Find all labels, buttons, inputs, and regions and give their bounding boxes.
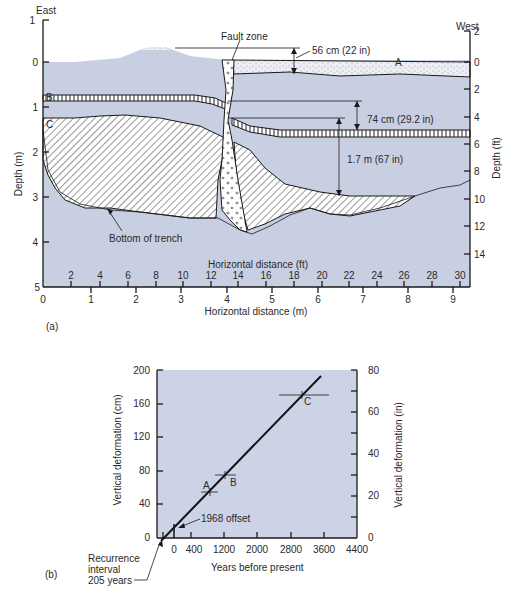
svg-text:160: 160 <box>133 398 150 409</box>
bottom-of-trench-label: Bottom of trench <box>109 233 182 244</box>
svg-text:14: 14 <box>474 249 486 260</box>
point-b-label: B <box>230 477 237 488</box>
svg-text:9: 9 <box>450 294 456 305</box>
deformation-chart: 0 40 80 120 160 200 0 20 40 60 80 <box>45 365 404 586</box>
trench-cross-section: 1 0 1 2 3 4 5 2 0 2 4 6 8 10 12 14 <box>13 5 502 332</box>
east-label: East <box>36 5 56 16</box>
svg-text:400: 400 <box>186 544 203 555</box>
svg-text:12: 12 <box>474 221 486 232</box>
svg-text:40: 40 <box>368 448 380 459</box>
layer-c-east <box>43 115 225 218</box>
figure: 1 0 1 2 3 4 5 2 0 2 4 6 8 10 12 14 <box>0 0 510 595</box>
recurrence-label-line2: interval <box>88 564 120 575</box>
svg-text:40: 40 <box>139 498 151 509</box>
svg-text:14: 14 <box>232 270 244 281</box>
layer-a-label: A <box>395 57 402 68</box>
svg-text:80: 80 <box>368 365 380 376</box>
svg-text:1: 1 <box>29 15 35 26</box>
svg-text:6: 6 <box>125 270 131 281</box>
svg-text:4: 4 <box>224 294 230 305</box>
svg-text:20: 20 <box>316 270 328 281</box>
panel-b-label: (b) <box>45 569 57 580</box>
svg-text:200: 200 <box>133 365 150 376</box>
svg-text:2: 2 <box>474 84 480 95</box>
point-c-label: C <box>304 396 311 407</box>
svg-text:7: 7 <box>360 294 366 305</box>
svg-text:2: 2 <box>32 147 38 158</box>
svg-text:2: 2 <box>133 294 139 305</box>
svg-text:6: 6 <box>315 294 321 305</box>
svg-text:2000: 2000 <box>246 544 269 555</box>
svg-text:0: 0 <box>474 57 480 68</box>
x-axis-label: Years before present <box>211 562 304 573</box>
svg-text:80: 80 <box>139 465 151 476</box>
horizontal-distance-m-label: Horizontal distance (m) <box>205 306 308 317</box>
svg-text:12: 12 <box>205 270 217 281</box>
svg-text:4: 4 <box>32 237 38 248</box>
svg-text:1200: 1200 <box>213 544 236 555</box>
svg-text:4: 4 <box>97 270 103 281</box>
svg-text:1: 1 <box>88 294 94 305</box>
offset-a-label: 56 cm (22 in) <box>312 45 370 56</box>
svg-text:0: 0 <box>32 57 38 68</box>
fault-zone-leader <box>232 40 240 60</box>
y-right-axis-label: Vertical deformation (in) <box>393 402 404 508</box>
fault-zone-label: Fault zone <box>221 31 268 42</box>
offset-c-label: 1.7 m (67 in) <box>347 154 403 165</box>
depth-m-label: Depth (m) <box>13 152 24 196</box>
svg-text:5: 5 <box>269 294 275 305</box>
svg-text:10: 10 <box>177 270 189 281</box>
svg-text:60: 60 <box>368 406 380 417</box>
bottom-ticks: 0 1 2 3 4 5 6 7 8 9 <box>40 287 456 305</box>
svg-text:3600: 3600 <box>313 544 336 555</box>
svg-text:30: 30 <box>454 270 466 281</box>
svg-text:0: 0 <box>368 532 374 543</box>
svg-text:8: 8 <box>153 270 159 281</box>
svg-text:0: 0 <box>40 294 46 305</box>
svg-text:1: 1 <box>32 102 38 113</box>
svg-text:28: 28 <box>426 270 438 281</box>
svg-text:2800: 2800 <box>280 544 303 555</box>
svg-text:20: 20 <box>368 490 380 501</box>
layer-c-label: C <box>46 119 53 130</box>
svg-text:22: 22 <box>343 270 355 281</box>
svg-text:24: 24 <box>371 270 383 281</box>
svg-text:26: 26 <box>398 270 410 281</box>
svg-text:3: 3 <box>178 294 184 305</box>
layer-b-label: B <box>46 92 53 103</box>
svg-text:4400: 4400 <box>346 544 369 555</box>
svg-text:10: 10 <box>474 194 486 205</box>
y-left-axis-label: Vertical deformation (cm) <box>112 394 123 505</box>
svg-text:4: 4 <box>474 112 480 123</box>
svg-text:3: 3 <box>32 192 38 203</box>
horizontal-distance-ft-label: Horizontal distance (ft) <box>208 259 308 270</box>
svg-text:120: 120 <box>133 431 150 442</box>
svg-text:18: 18 <box>288 270 300 281</box>
depth-ft-label: Depth (ft) <box>491 137 502 179</box>
point-a-label: A <box>203 480 210 491</box>
svg-text:8: 8 <box>474 166 480 177</box>
recurrence-label-line3: 205 years <box>88 575 132 586</box>
svg-text:0: 0 <box>144 532 150 543</box>
offset-1968-label: 1968 offset <box>201 513 251 524</box>
west-label: West <box>456 21 479 32</box>
svg-text:5: 5 <box>34 282 40 293</box>
panel-a-label: (a) <box>46 321 58 332</box>
svg-text:6: 6 <box>474 139 480 150</box>
svg-text:16: 16 <box>260 270 272 281</box>
svg-text:0: 0 <box>171 544 177 555</box>
svg-text:2: 2 <box>68 270 74 281</box>
svg-text:8: 8 <box>405 294 411 305</box>
recurrence-label-line1: Recurrence <box>88 553 140 564</box>
offset-b-label: 74 cm (29.2 in) <box>367 114 434 125</box>
